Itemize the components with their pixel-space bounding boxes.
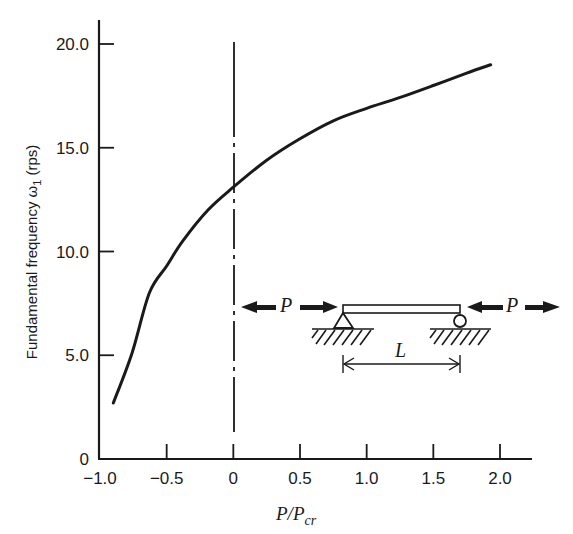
x-tick-label: 2.0 (488, 469, 512, 488)
frequency-curve (113, 65, 490, 403)
x-tick-label: 0.5 (288, 469, 312, 488)
arrow-left-inward-icon (300, 301, 338, 313)
pin-support-icon (334, 313, 353, 328)
y-tick-label: 20.0 (56, 35, 89, 54)
beam-diagram: P (241, 294, 560, 373)
roller-support-icon (454, 315, 466, 327)
arrow-right-outward-icon (525, 301, 560, 313)
force-label-right: P (505, 294, 518, 316)
y-tick-labels: 05.010.015.020.0 (56, 35, 89, 469)
y-tick-label: 0 (80, 450, 89, 469)
span-label: L (394, 339, 406, 361)
y-axis-label: Fundamental frequency ω1(rps) (23, 145, 43, 359)
x-axis-label: P/Pcr (275, 503, 317, 528)
y-ticks (99, 44, 114, 355)
x-tick-label: 1.0 (355, 469, 379, 488)
x-ticks (167, 444, 500, 459)
x-tick-label: −1.0 (83, 469, 117, 488)
chart: 05.010.015.020.0 −1.0−0.500.51.01.52.0 F… (0, 0, 573, 534)
y-tick-label: 5.0 (65, 346, 89, 365)
x-tick-label: 0 (229, 469, 238, 488)
x-tick-label: −0.5 (150, 469, 184, 488)
x-tick-labels: −1.0−0.500.51.01.52.0 (83, 469, 512, 488)
axes (98, 20, 532, 459)
y-tick-label: 10.0 (56, 243, 89, 262)
y-tick-label: 15.0 (56, 139, 89, 158)
beam (343, 305, 460, 313)
arrow-left-outward-icon (241, 301, 276, 313)
x-tick-label: 1.5 (422, 469, 446, 488)
force-label-left: P (279, 294, 292, 316)
arrow-right-inward-icon (467, 301, 503, 313)
